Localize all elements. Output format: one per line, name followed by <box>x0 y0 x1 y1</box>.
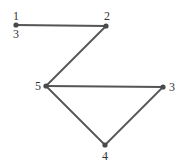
node-label: 2 <box>104 9 110 23</box>
node-label: 5 <box>35 79 41 93</box>
node-n2 <box>103 23 108 28</box>
graph-diagram: 132534 <box>0 0 186 165</box>
edge-n1-n2 <box>16 25 106 26</box>
node-label: 3 <box>13 27 19 41</box>
node-n4 <box>102 142 107 147</box>
node-label: 1 <box>13 9 19 23</box>
node-label: 3 <box>169 80 175 94</box>
edge-n5-n3 <box>46 86 163 87</box>
edge-n2-n5 <box>46 26 106 86</box>
node-n5 <box>43 83 48 88</box>
node-n3 <box>160 84 165 89</box>
edge-n5-n4 <box>46 86 105 145</box>
node-label: 4 <box>102 149 108 163</box>
edge-n3-n4 <box>105 87 163 145</box>
